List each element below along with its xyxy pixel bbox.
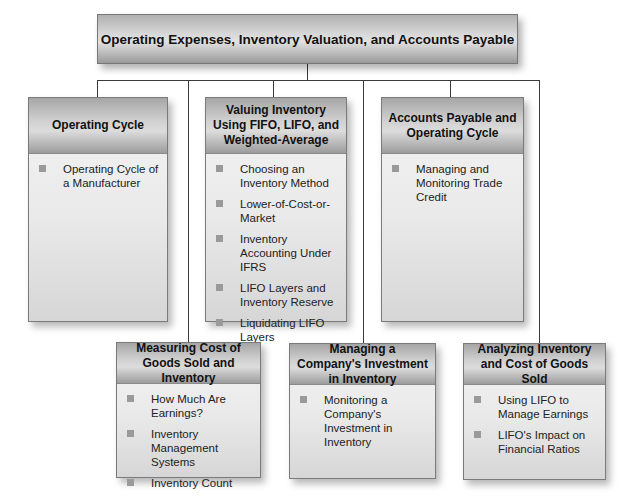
connector-root-down xyxy=(307,62,308,80)
square-bullet-icon xyxy=(474,431,481,438)
topic-list: Using LIFO to Manage Earnings LIFO's Imp… xyxy=(464,385,605,456)
list-item: Inventory Accounting Under IFRS xyxy=(216,232,338,274)
connector-managing xyxy=(363,80,364,343)
section-managing-investment: Managing a Company's Investment in Inven… xyxy=(289,343,436,479)
square-bullet-icon xyxy=(216,200,223,207)
connector-measuring xyxy=(188,80,189,342)
section-title: Operating Cycle xyxy=(29,98,167,154)
square-bullet-icon xyxy=(127,395,134,402)
square-bullet-icon xyxy=(127,479,134,486)
list-item: LIFO's Impact on Financial Ratios xyxy=(474,428,597,456)
section-accounts-payable: Accounts Payable and Operating Cycle Man… xyxy=(381,97,524,322)
list-item: Monitoring a Company's Investment in Inv… xyxy=(300,393,427,449)
section-title: Accounts Payable and Operating Cycle xyxy=(382,98,523,154)
list-item: Choosing an Inventory Method xyxy=(216,162,338,190)
square-bullet-icon xyxy=(127,430,134,437)
topic-list: Managing and Monitoring Trade Credit xyxy=(382,154,523,204)
list-item: Inventory Count xyxy=(127,476,252,490)
connector-horizontal xyxy=(97,80,540,81)
list-item: How Much Are Earnings? xyxy=(127,392,252,420)
list-item: Operating Cycle of a Manufacturer xyxy=(39,162,159,190)
square-bullet-icon xyxy=(216,284,223,291)
topic-list: How Much Are Earnings? Inventory Managem… xyxy=(117,384,260,490)
root-title: Operating Expenses, Inventory Valuation,… xyxy=(101,32,515,47)
list-item: Managing and Monitoring Trade Credit xyxy=(392,162,515,204)
square-bullet-icon xyxy=(216,235,223,242)
square-bullet-icon xyxy=(216,165,223,172)
list-item: LIFO Layers and Inventory Reserve xyxy=(216,281,338,309)
section-title: Managing a Company's Investment in Inven… xyxy=(290,344,435,385)
connector-operating-cycle xyxy=(97,80,98,97)
topic-list: Choosing an Inventory Method Lower-of-Co… xyxy=(206,154,346,344)
topic-list: Operating Cycle of a Manufacturer xyxy=(29,154,167,190)
list-item: Using LIFO to Manage Earnings xyxy=(474,393,597,421)
list-item: Lower-of-Cost-or-Market xyxy=(216,197,338,225)
connector-analyzing xyxy=(539,80,540,343)
root-box: Operating Expenses, Inventory Valuation,… xyxy=(97,14,518,64)
topic-list: Monitoring a Company's Investment in Inv… xyxy=(290,385,435,449)
section-measuring-cogs: Measuring Cost of Goods Sold and Invento… xyxy=(116,342,261,478)
square-bullet-icon xyxy=(39,165,46,172)
section-valuing-inventory: Valuing Inventory Using FIFO, LIFO, and … xyxy=(205,97,347,322)
connector-valuing xyxy=(273,80,274,97)
section-analyzing-inventory: Analyzing Inventory and Cost of Goods So… xyxy=(463,343,606,480)
section-title: Measuring Cost of Goods Sold and Invento… xyxy=(117,343,260,384)
connector-accounts-payable xyxy=(450,80,451,97)
section-operating-cycle: Operating Cycle Operating Cycle of a Man… xyxy=(28,97,168,322)
section-title: Valuing Inventory Using FIFO, LIFO, and … xyxy=(206,98,346,154)
square-bullet-icon xyxy=(216,319,223,326)
square-bullet-icon xyxy=(300,396,307,403)
square-bullet-icon xyxy=(474,396,481,403)
list-item: Inventory Management Systems xyxy=(127,427,252,469)
section-title: Analyzing Inventory and Cost of Goods So… xyxy=(464,344,605,385)
cropped-caption-text xyxy=(0,0,623,4)
square-bullet-icon xyxy=(392,165,399,172)
